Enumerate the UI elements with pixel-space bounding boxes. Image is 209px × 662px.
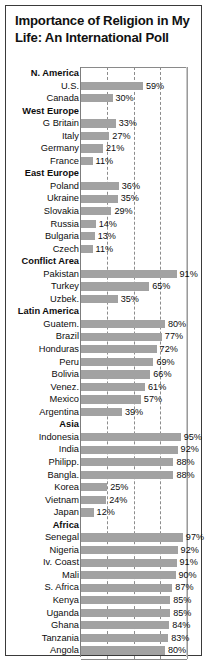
category-label: Slovakia [11, 205, 79, 218]
plot-cell: 87% [80, 581, 187, 594]
bar-value-label: 14% [96, 218, 117, 231]
bar-row: Honduras72% [6, 343, 201, 356]
category-label: Venez. [11, 381, 79, 394]
plot-cell: 13% [80, 230, 187, 243]
group-header-row: Africa [6, 519, 201, 532]
bar [81, 220, 96, 228]
bar-value-label: 13% [95, 230, 116, 243]
group-header-label: West Europe [11, 105, 79, 118]
plot-cell: 12% [80, 506, 187, 519]
bar [81, 395, 141, 403]
bar-row: S. Africa87% [6, 581, 201, 594]
plot-cell: 59% [80, 80, 187, 93]
plot-cell: 91% [80, 556, 187, 569]
bar-value-label: 91% [177, 556, 198, 569]
bar-row: Nigeria92% [6, 544, 201, 557]
plot-bottom-rule [81, 659, 187, 660]
plot-cell: 83% [80, 632, 187, 645]
bar-row: Italy27% [6, 130, 201, 143]
bar [81, 559, 177, 567]
category-label: S. Africa [11, 581, 79, 594]
bar-row: Senegal97% [6, 531, 201, 544]
plot-cell: 69% [80, 356, 187, 369]
category-label: Nigeria [11, 544, 79, 557]
category-label: India [11, 443, 79, 456]
bar-value-label: 90% [176, 569, 197, 582]
category-label: Philipp. [11, 456, 79, 469]
plot-cell: 88% [80, 469, 187, 482]
bar-row: Ghana84% [6, 619, 201, 632]
bar-row: Angola80% [6, 644, 201, 657]
bar-row: Peru69% [6, 356, 201, 369]
bar-row: Uganda85% [6, 607, 201, 620]
bar-value-label: 77% [162, 330, 183, 343]
bar [81, 232, 95, 240]
category-label: Uzbek. [11, 293, 79, 306]
bar-value-label: 39% [122, 406, 143, 419]
category-label: Argentina [11, 406, 79, 419]
bar [81, 621, 169, 629]
bar-row: Bulgaria13% [6, 230, 201, 243]
category-label: Poland [11, 180, 79, 193]
page-title: Importance of Religion in My Life: An In… [15, 13, 195, 46]
bar [81, 245, 93, 253]
category-label: Mali [11, 569, 79, 582]
bar-row: G Britain33% [6, 117, 201, 130]
bar [81, 383, 145, 391]
group-header-label: N. America [11, 67, 79, 80]
bar-value-label: 29% [111, 205, 132, 218]
bar-value-label: 57% [141, 393, 162, 406]
bar-row: Korea25% [6, 481, 201, 494]
bar [81, 370, 150, 378]
bar [81, 358, 153, 366]
bar-value-label: 27% [109, 130, 130, 143]
category-label: Mexico [11, 393, 79, 406]
bar [81, 471, 173, 479]
plot-cell: 33% [80, 117, 187, 130]
bar-row: Iv. Coast91% [6, 556, 201, 569]
category-label: Tanzania [11, 632, 79, 645]
plot-cell: 57% [80, 393, 187, 406]
category-label: Korea [11, 481, 79, 494]
bar-value-label: 85% [170, 607, 191, 620]
category-label: Angola [11, 644, 79, 657]
plot-cell: 97% [80, 531, 187, 544]
bar-row: Ukraine35% [6, 192, 201, 205]
bar-row: Japan12% [6, 506, 201, 519]
bar [81, 646, 165, 654]
plot-cell: 77% [80, 330, 187, 343]
bar-value-label: 21% [103, 142, 124, 155]
plot-cell [80, 167, 187, 180]
category-label: Honduras [11, 343, 79, 356]
plot-cell: 90% [80, 569, 187, 582]
category-label: Canada [11, 92, 79, 105]
bar [81, 157, 93, 165]
plot-cell: 66% [80, 368, 187, 381]
group-header-row: N. America [6, 67, 201, 80]
bar [81, 132, 109, 140]
bar-value-label: 61% [145, 381, 166, 394]
group-header-label: Latin America [11, 305, 79, 318]
plot-cell: 91% [80, 268, 187, 281]
category-label: Guatem. [11, 318, 79, 331]
plot-cell [80, 418, 187, 431]
bar-value-label: 33% [116, 117, 137, 130]
bar [81, 119, 116, 127]
bar [81, 94, 113, 102]
bar [81, 345, 157, 353]
bar [81, 144, 103, 152]
bar-row: Guatem.80% [6, 318, 201, 331]
bar-value-label: 88% [173, 469, 194, 482]
bar [81, 508, 94, 516]
bar-row: Poland36% [6, 180, 201, 193]
bar-row: Kenya85% [6, 594, 201, 607]
bar-row: Russia14% [6, 218, 201, 231]
bar-value-label: 25% [107, 481, 128, 494]
bar-row: Brazil77% [6, 330, 201, 343]
bar [81, 533, 183, 541]
bar-value-label: 59% [143, 80, 164, 93]
category-label: Germany [11, 142, 79, 155]
bar [81, 584, 172, 592]
bar [81, 571, 176, 579]
bar-value-label: 69% [153, 356, 174, 369]
